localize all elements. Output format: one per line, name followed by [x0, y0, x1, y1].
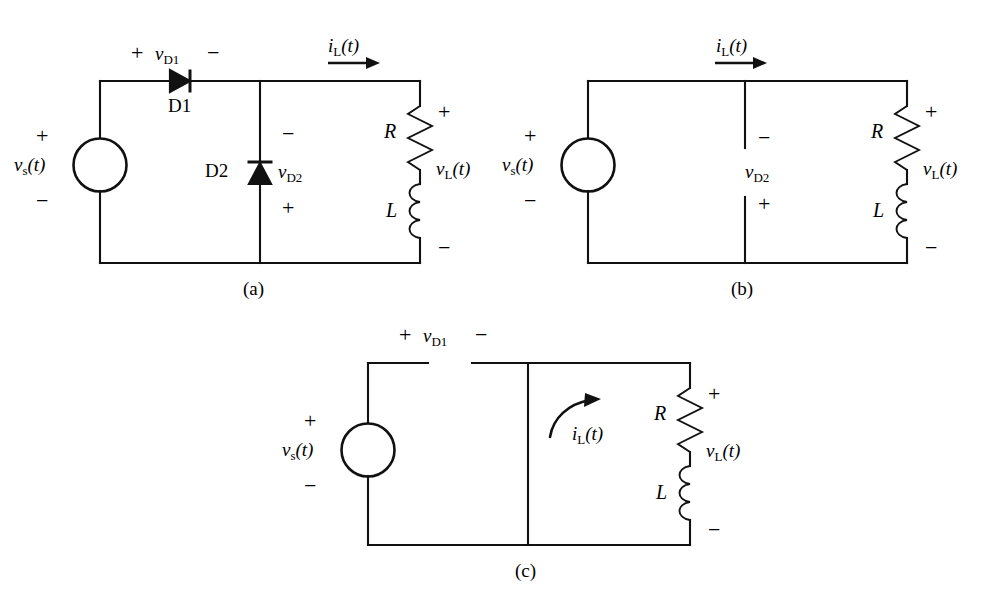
label-a-vd2-sub: D2 — [286, 170, 302, 185]
inductor-a — [410, 184, 421, 238]
panel-b-circuit — [562, 57, 920, 263]
label-a-resistor: R — [384, 121, 396, 141]
panel-c-circuit — [342, 363, 703, 545]
label-b-vl-plus: + — [925, 101, 937, 123]
resistor-c — [678, 388, 702, 452]
label-c-vs-arg: (t) — [296, 439, 314, 460]
current-arrow-c-head — [584, 393, 601, 407]
label-c-resistor: R — [654, 403, 666, 423]
label-c-vs: vs(t) — [282, 440, 313, 462]
label-a-vd2: vD2 — [278, 162, 302, 184]
label-b-il-arg: (t) — [729, 35, 747, 56]
label-c-vd1-minus: − — [475, 324, 487, 346]
label-b-vs-minus: − — [524, 190, 536, 212]
label-b-vl-minus: − — [925, 237, 937, 259]
label-a-d1-name: D1 — [168, 96, 191, 115]
label-b-vd2-sub: D2 — [753, 170, 769, 185]
label-b-vs: vs(t) — [502, 155, 533, 177]
circuit-figure: + vD1 − D1 iL(t) + vs(t) − D2 − vD2 + + … — [0, 0, 992, 609]
label-a-d2-name: D2 — [205, 161, 228, 180]
label-c-vd1-sub: D1 — [431, 334, 447, 349]
label-b-inductor: L — [873, 200, 884, 220]
label-a-vl-arg: (t) — [452, 158, 470, 179]
label-b-vd2: vD2 — [745, 162, 769, 184]
label-b-vl-arg: (t) — [939, 158, 957, 179]
label-a-vd2-plus: + — [282, 197, 294, 219]
label-a-vl-plus: + — [438, 101, 450, 123]
label-b-vs-arg: (t) — [516, 154, 534, 175]
label-a-vl: vL(t) — [436, 159, 470, 181]
label-a-vl-minus: − — [438, 237, 450, 259]
label-a-il: iL(t) — [328, 36, 359, 58]
resistor-a — [408, 106, 432, 170]
label-b-vl: vL(t) — [923, 159, 957, 181]
voltage-source-c — [342, 424, 395, 477]
label-b-vd2-plus: + — [758, 193, 770, 215]
label-c-inductor: L — [656, 482, 667, 502]
inductor-c — [680, 466, 691, 520]
label-c-vl-arg: (t) — [722, 440, 740, 461]
label-a-vs: vs(t) — [14, 155, 45, 177]
label-c-vl-plus: + — [708, 383, 720, 405]
label-c-vs-plus: + — [304, 410, 316, 432]
label-b-vd2-minus: − — [758, 127, 770, 149]
label-a-vs-arg: (t) — [28, 154, 46, 175]
label-a-vs-minus: − — [36, 190, 48, 212]
label-a-vs-plus: + — [36, 125, 48, 147]
label-c-vs-minus: − — [304, 475, 316, 497]
label-c-vl-minus: − — [708, 519, 720, 541]
inductor-b — [897, 184, 908, 238]
current-arrow-b-head — [753, 57, 767, 69]
label-c-vl: vL(t) — [706, 441, 740, 463]
diode-d2-triangle — [249, 163, 271, 184]
label-a-il-arg: (t) — [341, 35, 359, 56]
circuit-canvas — [0, 0, 992, 609]
label-c-vd1: vD1 — [423, 326, 447, 348]
label-a-vd1: vD1 — [155, 44, 179, 66]
resistor-b — [895, 106, 919, 170]
label-a-vd1-minus: − — [207, 42, 219, 64]
panel-a-circuit — [74, 57, 433, 263]
label-a-inductor: L — [386, 200, 397, 220]
label-a-vd1-sub: D1 — [163, 52, 179, 67]
current-arrow-a-head — [366, 57, 380, 69]
label-a-vd2-minus: − — [282, 123, 294, 145]
label-c-vd1-plus: + — [399, 324, 411, 346]
label-a-vd1-plus: + — [131, 42, 143, 64]
label-c-il: iL(t) — [572, 424, 603, 446]
voltage-source-a — [74, 139, 127, 192]
caption-a: (a) — [243, 279, 264, 298]
caption-c: (c) — [515, 561, 536, 580]
caption-b: (b) — [731, 279, 753, 298]
label-b-resistor: R — [871, 121, 883, 141]
label-c-il-arg: (t) — [585, 423, 603, 444]
label-b-il: iL(t) — [716, 36, 747, 58]
voltage-source-b — [562, 139, 615, 192]
label-b-vs-plus: + — [524, 125, 536, 147]
diode-d1-triangle — [170, 70, 190, 92]
